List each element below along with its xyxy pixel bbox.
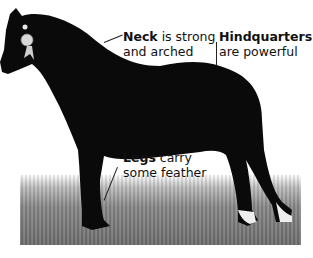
hindquarters-leader-line xyxy=(216,42,217,66)
hindquarters-label-line2: are powerful xyxy=(219,44,312,59)
neck-label-bold: Neck xyxy=(123,29,158,44)
neck-label-line2: and arched xyxy=(123,44,215,59)
horse-photo-scene: Neck is strong and arched Hindquarters a… xyxy=(0,0,313,258)
annotation-legs: Legs carry some feather xyxy=(123,150,206,180)
legs-label-bold: Legs xyxy=(123,150,156,165)
legs-label-rest: carry xyxy=(156,150,192,165)
annotation-hindquarters: Hindquarters are powerful xyxy=(219,29,312,59)
annotation-neck: Neck is strong and arched xyxy=(123,29,215,59)
legs-label-line2: some feather xyxy=(123,165,206,180)
hindquarters-label-bold: Hindquarters xyxy=(219,29,312,44)
neck-label-rest: is strong xyxy=(158,29,216,44)
